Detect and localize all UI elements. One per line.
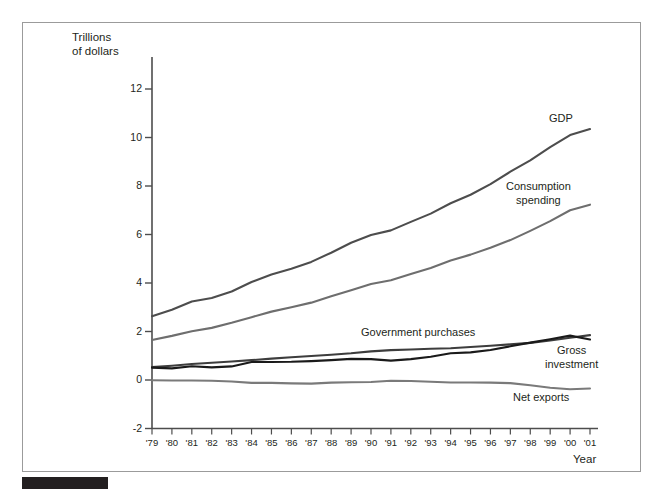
series-group [152,129,590,389]
figure-container: Trillionsof dollars Year GDP Consumption… [0,0,662,490]
axes-group [145,57,598,435]
y-tick-label--2: -2 [112,422,142,434]
series-label-consumption: Consumptionspending [506,180,571,207]
y-tick-label-6: 6 [112,228,142,240]
series-label-government-purchases: Government purchases [361,326,475,340]
chart-plot [0,0,662,490]
series-label-gross-investment: Grossinvestment [545,344,598,371]
series-label-gross-line1: Gross [557,344,586,356]
x-tick-label-01: '01 [578,437,602,448]
series-line-government-purchases [152,335,590,367]
y-tick-label-12: 12 [112,82,142,94]
series-line-gdp [152,129,590,316]
y-tick-label-4: 4 [112,276,142,288]
series-label-consumption-line2: spending [516,194,561,206]
y-tick-label-2: 2 [112,325,142,337]
y-tick-label-10: 10 [112,131,142,143]
y-tick-label-0: 0 [112,373,142,385]
series-line-net-exports [152,380,590,389]
series-label-net-exports: Net exports [513,391,569,405]
y-tick-label-8: 8 [112,179,142,191]
series-label-consumption-line1: Consumption [506,180,571,192]
series-label-gdp: GDP [549,112,573,126]
series-line-consumption-spending [152,205,590,340]
series-label-gross-line2: investment [545,358,598,370]
